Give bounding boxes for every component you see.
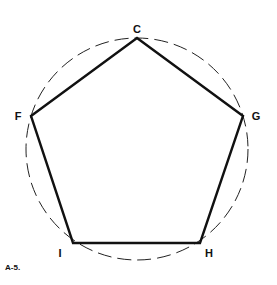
vertex-label-f: F [15, 110, 22, 122]
vertex-label-c: C [133, 23, 141, 35]
vertex-label-i: I [58, 247, 61, 259]
pentagon [31, 38, 243, 243]
vertex-label-g: G [252, 110, 261, 122]
vertex-label-h: H [205, 247, 213, 259]
circumscribed-circle [26, 38, 248, 260]
pentagon-diagram: C G H I F A-5. [0, 0, 277, 285]
figure-caption: A-5. [5, 263, 20, 272]
